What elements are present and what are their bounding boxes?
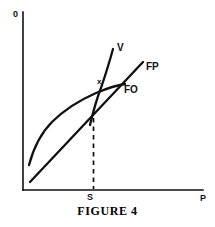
figure-caption: FIGURE 4 (0, 204, 215, 219)
figure-plot: 0 P S x V FP FO (0, 0, 215, 227)
intersection-marker-x: x (97, 77, 102, 86)
curve-label-fo: FO (124, 84, 138, 95)
y-axis-origin-label: 0 (13, 9, 18, 19)
curve-fp (30, 62, 143, 182)
x-axis-label: P (200, 193, 206, 203)
curve-label-fp: FP (146, 61, 159, 72)
x-tick-label-s: S (87, 192, 93, 202)
figure-container: 0 P S x V FP FO FIGURE 4 (0, 0, 215, 227)
curve-label-v: V (117, 42, 124, 53)
